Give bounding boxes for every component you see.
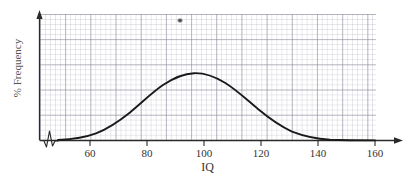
y-axis-title: % Frequency: [11, 25, 23, 111]
x-axis-arrowhead-icon: [394, 137, 403, 143]
x-tick-label-120: 120: [244, 147, 278, 159]
iq-distribution-chart: 60 80 100 120 140 160 IQ % Frequency: [0, 0, 415, 186]
axis-break-zigzag-icon: [44, 131, 58, 147]
y-axis-arrowhead-icon: [36, 10, 42, 19]
x-tick-label-80: 80: [130, 147, 164, 159]
x-tick-label-60: 60: [73, 147, 107, 159]
normal-distribution-curve: [58, 73, 375, 140]
x-axis-title: IQ: [0, 160, 415, 175]
x-tick-label-160: 160: [358, 147, 392, 159]
x-tick-label-100: 100: [187, 147, 221, 159]
x-axis-tick-marks: [90, 141, 375, 147]
x-tick-label-140: 140: [301, 147, 335, 159]
